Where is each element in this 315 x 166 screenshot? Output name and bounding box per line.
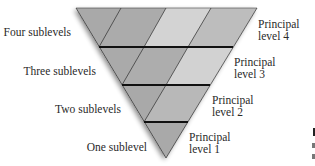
label-line-1: Principal: [234, 56, 276, 68]
label-line-2: level 1: [189, 143, 231, 155]
label-line-2: level 2: [212, 106, 254, 118]
label-one-sublevel: One sublevel: [87, 141, 147, 153]
label-principal-level-3: Principal level 3: [234, 56, 276, 80]
label-principal-level-2: Principal level 2: [212, 94, 254, 118]
sublevel-cell: [144, 122, 188, 158]
energy-level-diagram: Four sublevels Three sublevels Two suble…: [0, 0, 315, 166]
label-line-2: level 3: [234, 68, 276, 80]
label-principal-level-1: Principal level 1: [189, 131, 231, 155]
principal-level-4-row: [76, 8, 257, 47]
label-principal-level-4: Principal level 4: [258, 18, 300, 42]
label-line-1: Principal: [189, 131, 231, 143]
label-line-1: Principal: [258, 18, 300, 30]
label-two-sublevels: Two sublevels: [55, 103, 121, 115]
cutoff-text-fragment: [312, 154, 315, 159]
label-four-sublevels: Four sublevels: [4, 26, 71, 38]
label-line-2: level 4: [258, 30, 300, 42]
principal-level-1-row: [144, 122, 188, 158]
principal-level-2-row: [122, 85, 210, 122]
label-line-1: Principal: [212, 94, 254, 106]
label-three-sublevels: Three sublevels: [24, 65, 97, 77]
cutoff-heading-fragment: [313, 128, 315, 136]
cutoff-text-fragment: [312, 143, 315, 148]
